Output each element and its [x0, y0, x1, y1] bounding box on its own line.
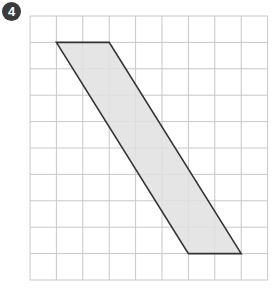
grid-diagram: [0, 0, 277, 301]
